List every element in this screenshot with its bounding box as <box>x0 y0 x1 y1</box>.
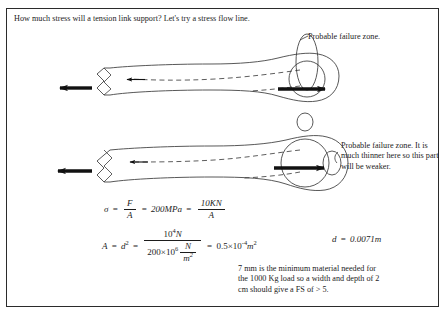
upper-link-outline <box>97 53 339 101</box>
eq2-main-fraction: 104N 200×106 N m2 <box>144 229 200 264</box>
eq2-denominator: 200×106 N m2 <box>144 241 200 264</box>
eq2-den-unit-num: N <box>180 241 196 253</box>
eq2-den-exp: 6 <box>175 245 178 252</box>
eq1-denominator-A2: A <box>198 210 225 221</box>
equation-stress: σ = F A = 200MPa = 10KN A <box>104 198 227 221</box>
eq2-equals-2: = <box>131 241 140 251</box>
upper-link-group <box>60 34 339 102</box>
eq1-stress-value: 200MPa <box>151 204 182 214</box>
eq2-den-unit-den: m2 <box>180 253 196 264</box>
eq2-den-unit-fraction: N m2 <box>180 241 196 264</box>
equation-area: A = d2 = 104N 200×106 N m2 = 0.5×10-4m2 <box>102 229 257 264</box>
sigma-symbol: σ <box>104 204 108 214</box>
eq1-fraction-10KN-over-A: 10KN A <box>198 198 225 221</box>
upper-link-left-notch <box>104 68 111 95</box>
eq3-value: 0.0071m <box>350 234 381 244</box>
eq2-den-coef: 200×10 <box>147 247 175 257</box>
eq3-equals: = <box>339 234 348 244</box>
eq2-lhs-A: A <box>102 241 108 251</box>
eq2-equals-3: = <box>205 241 214 251</box>
lower-link-left-notch <box>104 150 112 182</box>
eq1-equals-2: = <box>140 204 149 214</box>
lower-stress-flow-line <box>132 150 300 162</box>
stress-flow-diagram <box>0 0 447 316</box>
eq2-result-unit-exp: 2 <box>254 239 257 246</box>
equation-diameter: d = 0.0071m <box>332 234 381 244</box>
eq2-num-unit: N <box>176 229 182 239</box>
lower-stress-flow-line-2 <box>244 172 300 178</box>
lower-pin-hole <box>281 139 329 187</box>
upper-pin-hole <box>289 61 325 97</box>
eq1-equals-1: = <box>111 204 120 214</box>
lower-failure-zone-tail <box>297 113 313 131</box>
upper-stress-flow-line <box>130 70 300 80</box>
eq1-denominator-A: A <box>124 210 136 221</box>
eq2-equals-1: = <box>110 241 119 251</box>
eq2-lhs-d-exp: 2 <box>126 239 129 246</box>
eq2-numerator: 104N <box>144 229 200 241</box>
lower-link-group <box>58 113 348 191</box>
lower-failure-zone-ellipse <box>323 151 341 175</box>
eq1-numerator-F: F <box>124 198 136 210</box>
eq1-equals-3: = <box>184 204 193 214</box>
eq2-den-unit-den-exp: 2 <box>190 251 193 258</box>
lower-link-outline <box>97 136 348 191</box>
upper-failure-zone-ellipse <box>296 34 318 90</box>
eq1-numerator-10KN: 10KN <box>198 198 225 210</box>
eq3-symbol-d: d <box>332 234 337 244</box>
eq2-result-coef: 0.5×10 <box>216 241 241 251</box>
eq1-fraction-F-over-A: F A <box>124 198 136 221</box>
